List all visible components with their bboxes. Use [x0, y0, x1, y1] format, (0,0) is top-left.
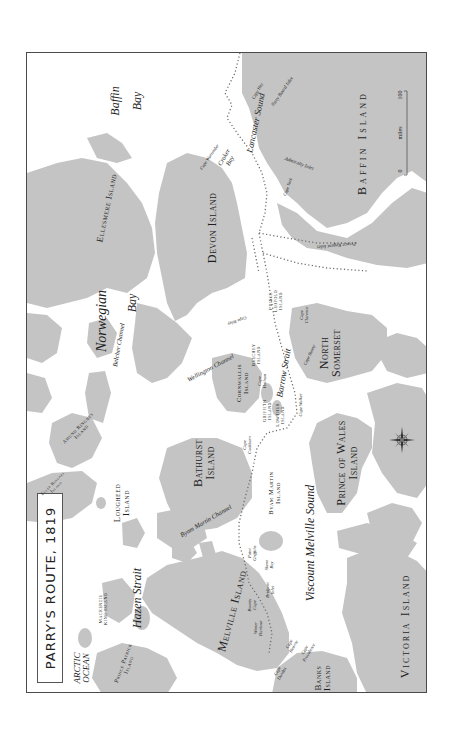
label-bridport-inlet: BridportInlet [266, 582, 275, 598]
label-cornwallis-island: CornwallisIsland [236, 364, 249, 402]
label-byam-martin-island: Byam MartinIsland [268, 471, 281, 514]
label-norwegian-bay-1: Norwegian [95, 290, 109, 352]
label-prince-leopold-island: PrinceLeopoldIsland [268, 290, 283, 312]
label-griffith-island: GriffithIsland [262, 400, 272, 423]
scale-unit: miles [397, 127, 403, 140]
land-byam-martin-island [259, 531, 283, 551]
label-skene-bay: SkeneBay [265, 560, 274, 571]
label-bounty-cape: BountyCape [248, 599, 257, 612]
label-cape-cockburn: CapeCockburn [243, 436, 252, 454]
map-title-box: PARRY'S ROUTE, 1819 [37, 493, 63, 683]
land-lougheed-island [122, 518, 145, 548]
label-norwegian-bay-2: Bay [126, 294, 138, 313]
label-beechey-island: BeecheyIsland [251, 344, 261, 367]
scale-start: 0 [397, 170, 403, 173]
label-bathurst-island: BathurstIsland [192, 439, 216, 487]
label-mackenzie-king-island: MackenzieKing Island [98, 593, 108, 625]
label-baffin-island: Baffin Island [356, 91, 368, 195]
label-arctic-ocean: ARCTICOCEAN [73, 652, 91, 683]
label-hazen-strait: Hazen Strait [131, 568, 143, 628]
label-cape-walker: Cape Walker [299, 393, 304, 416]
label-cape-hotham: CapeHotham [258, 374, 267, 389]
land-somerset-east [372, 333, 427, 378]
label-point-griffiths: PointGriffiths [248, 545, 257, 560]
label-lougheed-island: LougheedIsland [113, 484, 131, 523]
land-small-dot [96, 497, 106, 509]
label-prince-of-wales-island: Prince of WalesIsland [335, 420, 359, 506]
label-baffin-bay-2: Bay [131, 92, 143, 111]
map-frame: PARRY'S ROUTE, 1819 0 miles 100 Baffin B… [26, 52, 427, 693]
label-viscount-melville-sound: Viscount Melville Sound [304, 485, 316, 601]
land-left-edge [27, 313, 62, 363]
label-north-somerset: NorthSomerset [318, 329, 342, 377]
label-victoria-island: Victoria Island [399, 574, 411, 679]
scale-bar: 0 miles 100 [395, 83, 415, 183]
land-victoria-island [342, 548, 427, 693]
label-winter-harbour: WinterHarbour [254, 620, 263, 636]
label-lowther-island: LowtherIsland [275, 403, 285, 427]
label-devon-island: Devon Island [206, 193, 218, 264]
label-baffin-bay-1: Baffin [109, 86, 121, 115]
label-cape-clarence: CapeClarence [300, 307, 309, 323]
land-small-mk [78, 628, 92, 648]
label-banks-island: BanksIsland [314, 665, 332, 691]
route-inlet-3 [252, 238, 259, 273]
land-left-edge-2 [27, 373, 52, 413]
scale-end: 100 [397, 91, 403, 100]
land-devon-island [155, 153, 247, 321]
land-ellesmere-north [87, 133, 132, 163]
compass-rose-icon [387, 425, 417, 455]
land-ellesmere-island [27, 158, 155, 308]
map-title: PARRY'S ROUTE, 1819 [43, 507, 58, 669]
